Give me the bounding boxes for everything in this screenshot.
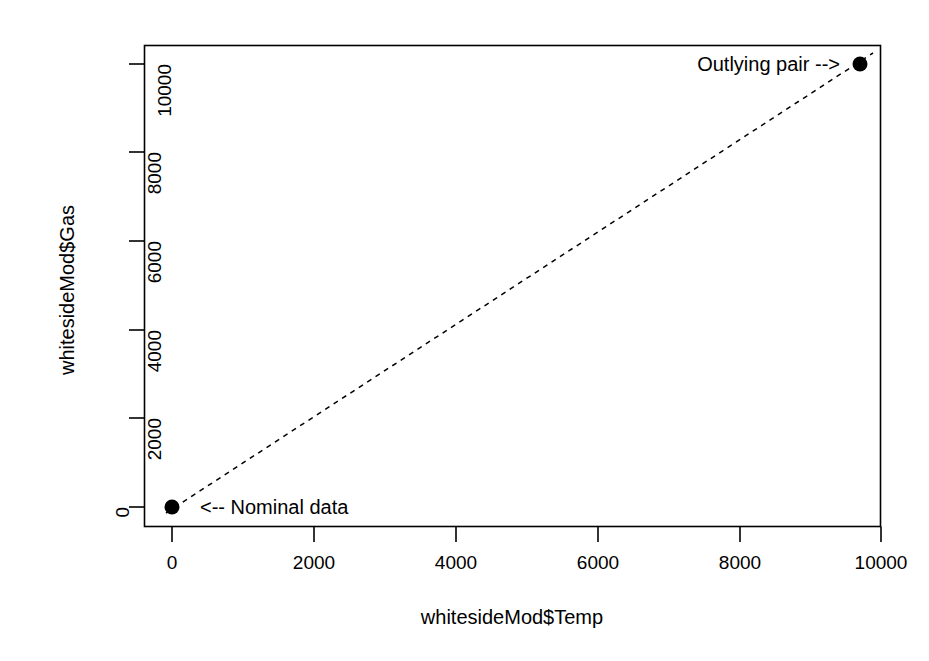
- y-tick-label-10000: 10000: [155, 64, 174, 117]
- y-tick-label-2000: 2000: [145, 418, 164, 460]
- scatter-plot-figure: 0 2000 4000 6000 8000 10000 0 2000 4000 …: [0, 0, 929, 661]
- plot-box-border: [145, 46, 881, 527]
- x-tick-label-8000: 8000: [719, 553, 761, 572]
- x-tick-label-0: 0: [167, 553, 178, 572]
- x-axis-ticks: [172, 527, 881, 543]
- fitted-dashed-line: [166, 53, 873, 513]
- x-axis-title: whitesideMod$Temp: [421, 607, 603, 627]
- y-tick-label-4000: 4000: [145, 330, 164, 372]
- y-tick-label-0: 0: [113, 507, 132, 518]
- data-point-nominal: [165, 500, 180, 515]
- x-tick-label-4000: 4000: [435, 553, 477, 572]
- x-tick-label-6000: 6000: [577, 553, 619, 572]
- y-tick-label-6000: 6000: [145, 241, 164, 283]
- annotation-outlying-pair: Outlying pair -->: [697, 54, 840, 74]
- x-tick-label-10000: 10000: [855, 553, 908, 572]
- annotation-nominal-data: <-- Nominal data: [200, 497, 348, 517]
- y-axis-ticks: [129, 64, 145, 507]
- y-axis-title: whitesideMod$Gas: [57, 205, 77, 375]
- data-point-outlier: [853, 57, 868, 72]
- y-tick-label-8000: 8000: [145, 152, 164, 194]
- x-tick-label-2000: 2000: [293, 553, 335, 572]
